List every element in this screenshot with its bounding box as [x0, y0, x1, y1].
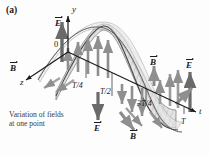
e-symbol: E: [186, 60, 192, 70]
field-variation-diagram: [0, 0, 210, 155]
b-symbol: B: [10, 63, 16, 73]
z-axis-line: [26, 52, 68, 80]
figure-caption: Variation of fields at one point: [9, 110, 64, 129]
y-axis-label: y: [72, 5, 76, 14]
half-period-label: T/2: [100, 88, 111, 96]
vector-arrow-overbar: [130, 130, 137, 131]
figure-panel: (a) y z t 0 T/4 T/2 3T/4 T E B B E E B V…: [0, 0, 210, 155]
vector-arrow-overbar: [150, 56, 157, 57]
z-axis-label: z: [20, 78, 24, 87]
e-symbol: E: [55, 18, 61, 28]
b-field-label-bottom: B: [130, 132, 136, 141]
b-field-label-upper-right: B: [150, 58, 156, 67]
t-axis-label: t: [199, 107, 202, 116]
full-period-label: T: [181, 118, 185, 126]
e-field-arrows: [68, 36, 108, 78]
b-field-label-left: B: [10, 64, 16, 73]
vector-arrow-overbar: [186, 59, 193, 60]
b-symbol: B: [130, 131, 136, 141]
quarter-period-label: T/4: [72, 82, 83, 90]
e-symbol: E: [94, 123, 100, 133]
e-field-label-top-left: E: [55, 19, 61, 28]
b-symbol: B: [150, 57, 156, 67]
e-field-label-bottom: E: [94, 124, 100, 133]
origin-label: 0: [54, 40, 58, 49]
panel-identifier: (a): [6, 6, 17, 16]
b-field-arrows: [44, 78, 74, 92]
vector-arrow-overbar: [55, 17, 62, 18]
three-quarter-period-label: 3T/4: [137, 100, 152, 108]
vector-arrow-overbar: [10, 62, 17, 63]
caption-line-1: Variation of fields: [9, 110, 64, 119]
caption-line-2: at one point: [9, 119, 64, 128]
vector-arrow-overbar: [94, 122, 101, 123]
e-field-label-right: E: [186, 61, 192, 70]
